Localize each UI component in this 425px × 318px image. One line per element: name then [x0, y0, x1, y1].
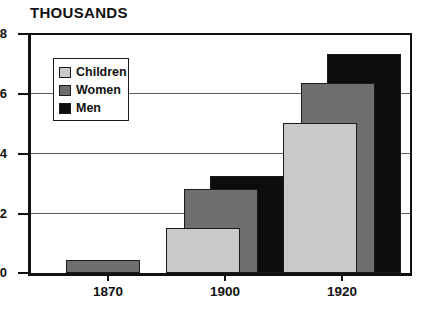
- plot-frame-right: [410, 33, 412, 273]
- y-axis-label-8: 8: [0, 27, 7, 40]
- chart-legend: Children Women Men: [53, 58, 129, 121]
- x-axis-line: [28, 273, 412, 276]
- legend-label-men: Men: [76, 102, 101, 115]
- y-axis-tick-6: [18, 93, 28, 95]
- y-axis-tick-2: [18, 213, 28, 215]
- y-axis-label-2: 2: [0, 207, 7, 220]
- legend-label-women: Women: [76, 84, 121, 97]
- plot-frame-top: [28, 33, 412, 35]
- y-axis-tick-8: [18, 33, 28, 35]
- legend-swatch-children-icon: [59, 67, 71, 78]
- x-axis-label-1870: 1870: [78, 285, 138, 299]
- y-axis-tick-0: [18, 272, 28, 274]
- x-axis-label-1900: 1900: [195, 285, 255, 299]
- legend-swatch-men-icon: [59, 103, 71, 114]
- legend-item-children: Children: [59, 64, 128, 81]
- y-axis-line: [28, 33, 31, 273]
- bar-1900-children: [166, 228, 240, 273]
- legend-label-children: Children: [76, 66, 127, 79]
- y-axis-label-4: 4: [0, 147, 7, 160]
- bar-1870-women: [66, 260, 140, 274]
- legend-item-men: Men: [59, 100, 128, 117]
- bar-chart: THOUSANDS 8 6 4 2 0 1870 1900 1920: [0, 0, 425, 318]
- x-axis-label-1920: 1920: [312, 285, 372, 299]
- y-axis-label-6: 6: [0, 87, 7, 100]
- y-axis-tick-4: [18, 153, 28, 155]
- chart-title: THOUSANDS: [30, 4, 128, 21]
- bar-1920-children: [283, 123, 357, 273]
- y-axis-label-0: 0: [0, 266, 7, 279]
- legend-item-women: Women: [59, 82, 128, 99]
- legend-swatch-women-icon: [59, 85, 71, 96]
